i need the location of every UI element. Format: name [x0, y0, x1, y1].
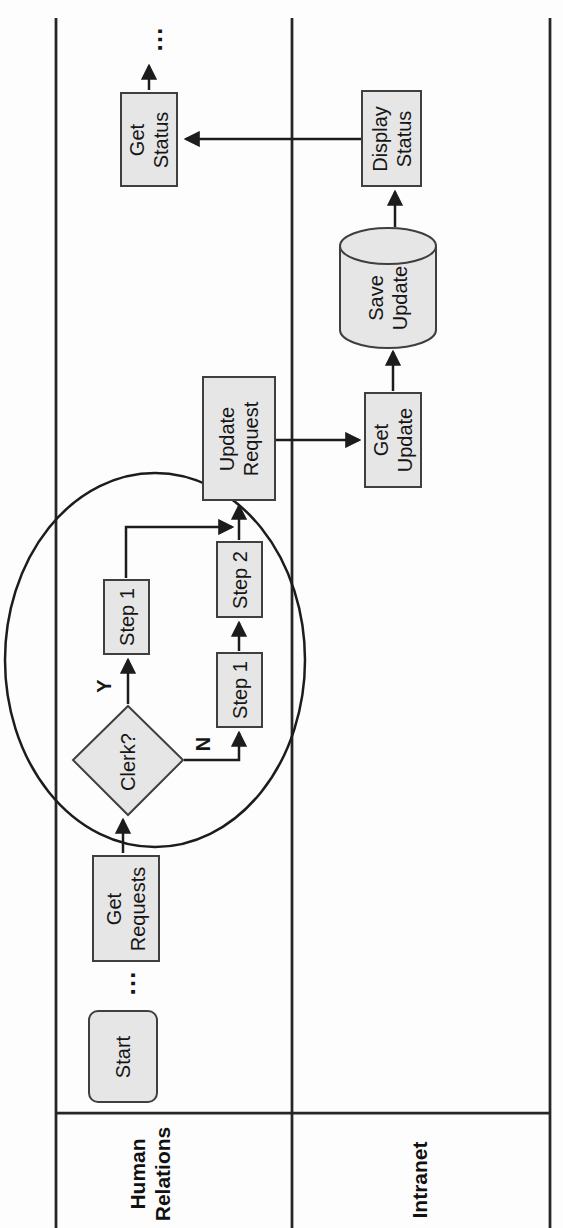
node-display-status-text-line2: Status [392, 106, 416, 172]
node-get-status: Get Status [120, 92, 178, 187]
node-save-update-text-line2: Update [388, 266, 412, 331]
node-save-update-text-line1: Save [364, 266, 388, 331]
node-update-request-text-line1: Update [215, 401, 239, 476]
node-update-request-text-line2: Request [239, 401, 263, 476]
node-step1-no-text: Step 1 [228, 661, 252, 719]
node-get-requests-text-line1: Get [102, 866, 126, 951]
node-step2-label: Step 2 [228, 551, 252, 609]
continuation-ellipsis-top: … [138, 26, 169, 53]
node-start: Start [88, 1010, 158, 1103]
node-start-text: Start [111, 1035, 135, 1077]
node-get-requests-label: Get Requests [102, 866, 150, 951]
lane-label-intranet: Intranet [407, 1141, 432, 1218]
node-step2-text: Step 2 [228, 551, 252, 609]
node-display-status-text-line1: Display [368, 106, 392, 172]
node-display-status-label: Display Status [368, 106, 416, 172]
cylinder-top-ellipse [340, 228, 436, 264]
node-get-status-text-line1: Get [125, 111, 149, 168]
node-get-status-label: Get Status [125, 111, 173, 168]
flowchart-figure: Start Get Requests Step 1 Step 1 Step 2 … [0, 0, 563, 1228]
lane-label-human-relations-line1: Human [125, 1127, 150, 1222]
node-clerk-decision-label: Clerk? [116, 733, 140, 791]
node-get-update-text-line2: Update [393, 408, 417, 473]
lane-label-human-relations-line2: Relations [150, 1127, 175, 1222]
node-get-requests: Get Requests [92, 855, 160, 962]
node-update-request: Update Request [202, 376, 276, 501]
node-get-update-text-line1: Get [369, 408, 393, 473]
node-step2: Step 2 [216, 541, 263, 618]
lane-label-intranet-line1: Intranet [407, 1141, 432, 1218]
branch-label-yes: Y [93, 679, 116, 692]
node-save-update-label: Save Update [364, 266, 412, 331]
node-clerk-decision-text: Clerk? [116, 733, 140, 791]
branch-label-no: N [192, 737, 215, 751]
node-step1-yes: Step 1 [103, 579, 150, 655]
node-get-status-text-line2: Status [149, 111, 173, 168]
node-display-status: Display Status [361, 90, 422, 187]
node-get-update: Get Update [364, 392, 422, 488]
node-get-requests-text-line2: Requests [126, 866, 150, 951]
node-step1-no: Step 1 [216, 652, 263, 728]
diagram-shape-layer [0, 0, 563, 1228]
node-step1-no-label: Step 1 [228, 661, 252, 719]
node-update-request-label: Update Request [215, 401, 263, 476]
node-step1-yes-label: Step 1 [115, 588, 139, 646]
node-get-update-label: Get Update [369, 408, 417, 473]
lane-label-human-relations: Human Relations [125, 1127, 175, 1222]
continuation-ellipsis-bottom: … [111, 970, 142, 997]
node-start-label: Start [111, 1035, 135, 1077]
node-step1-yes-text: Step 1 [115, 588, 139, 646]
